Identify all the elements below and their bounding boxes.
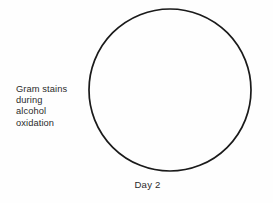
annotation-line-1: Gram stains <box>16 84 90 95</box>
side-annotation: Gram stains during alcohol oxidation <box>16 84 90 129</box>
annotation-line-4: oxidation <box>16 118 90 129</box>
day-caption: Day 2 <box>0 179 273 191</box>
figure-canvas: Gram stains during alcohol oxidation Day… <box>0 0 273 203</box>
dish-circle-outline <box>89 9 251 171</box>
day-caption-text: Day 2 <box>134 179 160 190</box>
annotation-line-3: alcohol <box>16 106 90 117</box>
annotation-line-2: during <box>16 95 90 106</box>
